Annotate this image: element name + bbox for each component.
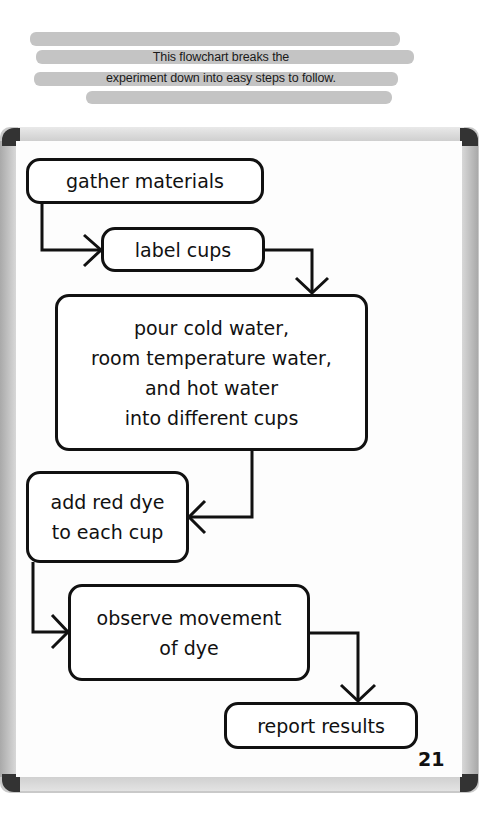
step-text: pour cold water, <box>134 313 289 343</box>
page-number: 21 <box>418 748 444 770</box>
step-add-red-dye: add red dye to each cup <box>26 471 189 563</box>
step-text: label cups <box>135 235 231 265</box>
step-text: report results <box>257 711 385 741</box>
step-text: to each cup <box>52 517 164 547</box>
step-text: and hot water <box>145 373 278 403</box>
step-text: of dye <box>159 633 218 663</box>
step-label-cups: label cups <box>101 227 265 272</box>
step-text: add red dye <box>51 487 165 517</box>
step-observe-movement: observe movement of dye <box>68 584 310 681</box>
step-pour-water: pour cold water, room temperature water,… <box>55 294 368 451</box>
step-text: into different cups <box>125 403 299 433</box>
step-text: gather materials <box>66 166 224 196</box>
step-gather-materials: gather materials <box>26 158 264 204</box>
step-text: room temperature water, <box>91 343 332 373</box>
step-report-results: report results <box>224 702 418 749</box>
step-text: observe movement <box>97 603 282 633</box>
